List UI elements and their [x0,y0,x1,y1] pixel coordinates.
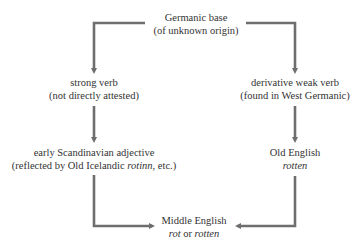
node-weak-verb: derivative weak verb (found in West Germ… [240,76,349,102]
node-old-english: Old English rotten [270,146,320,172]
arrow-scandinavian-to-middle-english [94,175,152,226]
scandinavian-note-prefix: (reflected by Old Icelandic [12,160,127,171]
scandinavian-note-suffix: , etc.) [153,160,177,171]
old-icelandic-word: rotinn [127,160,152,171]
scandinavian-adjective-note: (reflected by Old Icelandic rotinn, etc.… [12,159,176,172]
diagram-arrows [0,0,359,248]
old-english-word: rotten [270,159,320,172]
strong-verb-label: strong verb [49,76,139,89]
node-germanic-base: Germanic base (of unknown origin) [153,11,238,37]
arrow-base-to-strong-verb [94,23,145,71]
weak-verb-note: (found in West Germanic) [240,89,349,102]
strong-verb-note: (not directly attested) [49,89,139,102]
middle-english-words: rot or rotten [161,227,226,240]
scandinavian-adjective-label: early Scandinavian adjective [12,146,176,159]
germanic-base-note: (of unknown origin) [153,24,238,37]
middle-english-connector: or [181,228,195,239]
arrow-base-to-weak-verb [246,23,295,71]
middle-english-word-rotten: rotten [195,228,220,239]
old-english-label: Old English [270,146,320,159]
germanic-base-label: Germanic base [153,11,238,24]
middle-english-word-rot: rot [169,228,181,239]
weak-verb-label: derivative weak verb [240,76,349,89]
node-strong-verb: strong verb (not directly attested) [49,76,139,102]
etymology-diagram: Germanic base (of unknown origin) strong… [0,0,359,248]
node-scandinavian-adjective: early Scandinavian adjective (reflected … [12,146,176,172]
arrow-old-english-to-middle-english [238,176,295,226]
node-middle-english: Middle English rot or rotten [161,214,226,240]
middle-english-label: Middle English [161,214,226,227]
